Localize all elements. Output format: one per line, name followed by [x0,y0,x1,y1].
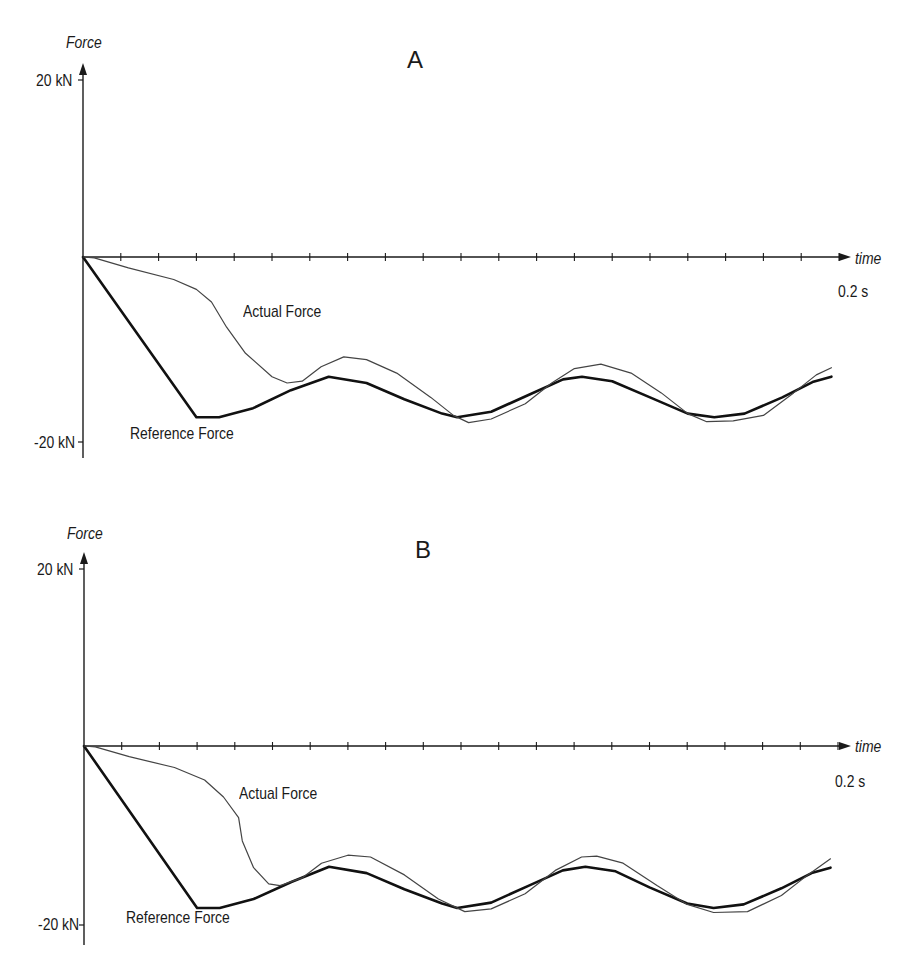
chart-b-reference-force-line [84,746,831,908]
chart-a-title: A [407,48,423,72]
chart-b-y-arrow-icon [80,552,88,564]
chart-b-reference-force-label: Reference Force [126,909,230,926]
chart-a-y-axis-label: Force [66,34,102,51]
chart-b-y-axis-label: Force [67,525,103,542]
chart-a-x-axis-label: time [855,250,881,267]
chart-a-actual-force-line [83,257,831,423]
chart-b-plot [0,489,908,965]
chart-b-y-max-label: 20 kN [37,561,73,578]
chart-a-x-arrow-icon [839,253,851,261]
chart-a-y-arrow-icon [79,63,87,75]
chart-b-x-axis-label: time [855,738,881,755]
chart-a-actual-force-label: Actual Force [243,303,321,320]
chart-a-reference-force-line [83,257,831,417]
chart-b-x-arrow-icon [839,742,851,750]
chart-a-y-min-label: -20 kN [34,434,75,451]
chart-panel-b: B Force 20 kN -20 kN time 0.2 s Actual F… [0,489,908,965]
chart-b-actual-force-label: Actual Force [239,785,317,802]
chart-a-plot [0,0,908,482]
chart-a-y-max-label: 20 kN [36,72,72,89]
chart-b-actual-force-line [84,746,831,913]
chart-panel-a: A Force 20 kN -20 kN time 0.2 s Actual F… [0,0,908,482]
chart-b-title: B [415,538,431,562]
chart-b-x-max-label: 0.2 s [835,773,865,790]
chart-a-reference-force-label: Reference Force [130,425,234,442]
chart-b-y-min-label: -20 kN [38,916,79,933]
chart-a-x-max-label: 0.2 s [838,283,868,300]
